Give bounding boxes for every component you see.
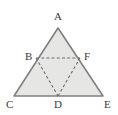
vertex-label-d: D [54,99,62,110]
vertex-label-f: F [84,51,90,62]
geometry-figure: A B F C D E [0,0,118,115]
vertex-label-c: C [6,99,13,110]
outer-triangle-shape [14,28,103,96]
vertex-label-b: B [25,51,32,62]
vertex-label-a: A [54,11,62,22]
vertex-label-e: E [104,99,111,110]
